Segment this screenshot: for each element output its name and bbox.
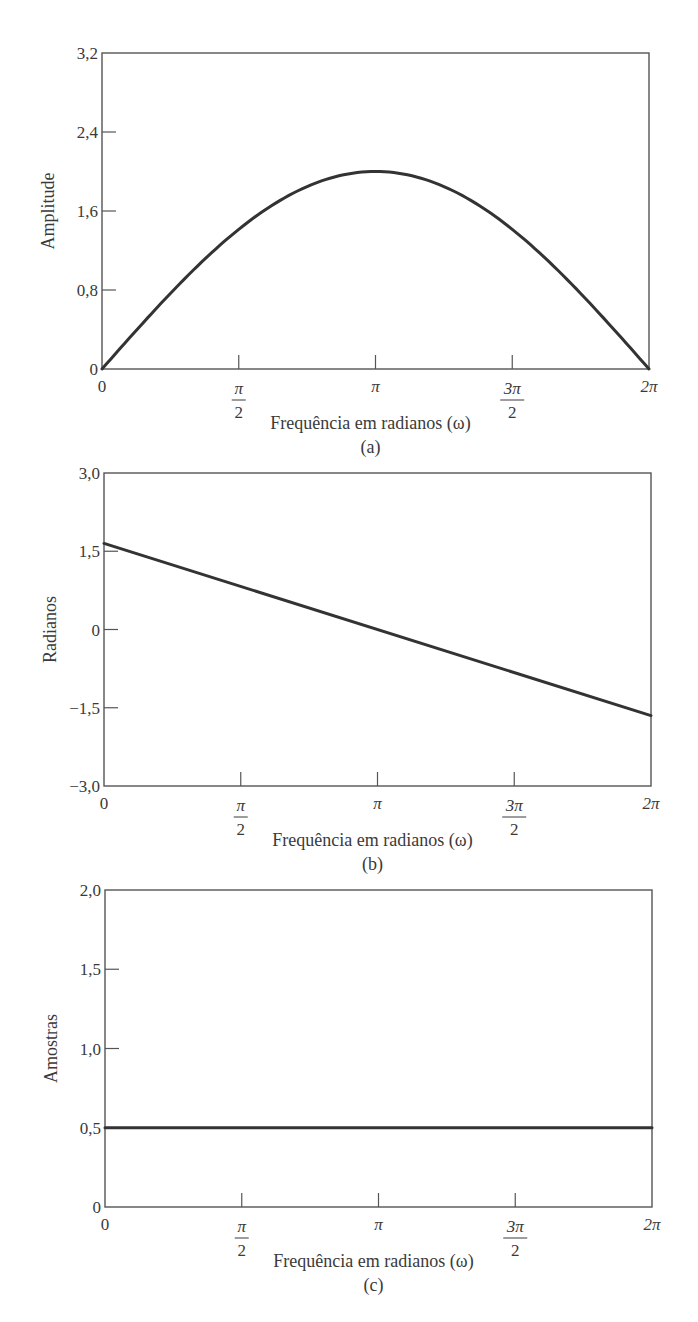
- y-tick-label: 0: [92, 621, 101, 640]
- svg-text:π: π: [237, 1217, 246, 1236]
- svg-text:3π: 3π: [506, 1217, 525, 1236]
- y-tick-label: 1,6: [77, 202, 98, 221]
- y-tick-label: −1,5: [69, 699, 100, 718]
- svg-text:2: 2: [511, 1241, 520, 1260]
- y-axis-label: Amplitude: [38, 172, 58, 249]
- y-axis-label: Radianos: [40, 596, 60, 663]
- svg-text:2π: 2π: [640, 377, 658, 396]
- data-line: [102, 172, 649, 370]
- x-tick-label: 2π: [643, 1215, 661, 1234]
- svg-text:2π: 2π: [643, 1215, 661, 1234]
- y-tick-label: 2,4: [77, 123, 99, 142]
- x-tick-label: 3π2: [500, 379, 524, 422]
- svg-text:2: 2: [234, 403, 243, 422]
- x-tick-label: π2: [234, 796, 248, 839]
- x-axis-label: Frequência em radianos (ω): [270, 413, 470, 434]
- svg-text:π: π: [373, 794, 382, 813]
- svg-text:3π: 3π: [503, 379, 522, 398]
- x-tick-label: 2π: [642, 794, 660, 813]
- svg-text:2: 2: [510, 820, 519, 839]
- y-tick-label: 0,5: [80, 1119, 101, 1138]
- y-axis-label: Amostras: [41, 1014, 61, 1083]
- y-tick-label: 1,5: [79, 542, 100, 561]
- x-axis-label: Frequência em radianos (ω): [273, 1251, 473, 1272]
- y-tick-label: 1,0: [80, 1040, 101, 1059]
- svg-text:2: 2: [236, 820, 245, 839]
- svg-text:0: 0: [101, 1215, 110, 1234]
- y-tick-label: 3,2: [77, 44, 98, 63]
- svg-text:0: 0: [98, 377, 107, 396]
- x-tick-label: π: [374, 1215, 383, 1234]
- x-tick-label: π: [371, 377, 380, 396]
- y-tick-label: 0: [93, 1198, 102, 1217]
- plot-frame: [102, 53, 649, 369]
- figure-caption: (a): [361, 437, 381, 458]
- svg-text:π: π: [371, 377, 380, 396]
- y-tick-label: 0: [90, 360, 99, 379]
- x-tick-label: 3π2: [502, 796, 526, 839]
- figure-caption: (c): [364, 1275, 384, 1296]
- y-tick-label: 2,0: [80, 881, 101, 900]
- svg-text:3π: 3π: [505, 796, 524, 815]
- data-line: [104, 543, 651, 715]
- chart-b: −3,0−1,501,53,00π2π3π22πFrequência em ra…: [40, 464, 660, 875]
- y-tick-label: 3,0: [79, 464, 100, 483]
- x-tick-label: π2: [235, 1217, 249, 1260]
- svg-text:2: 2: [508, 403, 517, 422]
- svg-text:π: π: [236, 796, 245, 815]
- x-tick-label: 0: [100, 794, 109, 813]
- svg-text:π: π: [374, 1215, 383, 1234]
- figure-canvas: 00,81,62,43,20π2π3π22πFrequência em radi…: [0, 0, 698, 1322]
- chart-c: 00,51,01,52,00π2π3π22πFrequência em radi…: [41, 881, 661, 1296]
- x-tick-label: 0: [98, 377, 107, 396]
- svg-text:π: π: [234, 379, 243, 398]
- svg-text:0: 0: [100, 794, 109, 813]
- y-tick-label: 1,5: [80, 960, 101, 979]
- x-axis-label: Frequência em radianos (ω): [272, 830, 472, 851]
- chart-a: 00,81,62,43,20π2π3π22πFrequência em radi…: [38, 44, 658, 458]
- x-tick-label: π2: [232, 379, 246, 422]
- x-tick-label: 3π2: [503, 1217, 527, 1260]
- y-tick-label: 0,8: [77, 281, 98, 300]
- plot-frame: [105, 890, 652, 1207]
- x-tick-label: 0: [101, 1215, 110, 1234]
- svg-text:2: 2: [237, 1241, 246, 1260]
- figure-caption: (b): [362, 854, 383, 875]
- x-tick-label: π: [373, 794, 382, 813]
- y-tick-label: −3,0: [69, 777, 100, 796]
- x-tick-label: 2π: [640, 377, 658, 396]
- svg-text:2π: 2π: [642, 794, 660, 813]
